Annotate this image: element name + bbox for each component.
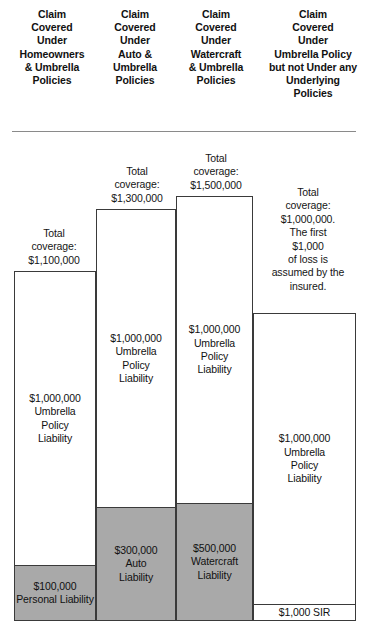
bar-segment-umbrella-liability-2[interactable]: $1,000,000 Umbrella Policy Liability xyxy=(97,210,175,507)
bar-homeowners-umbrella[interactable]: $1,000,000 Umbrella Policy Liability $10… xyxy=(14,271,96,621)
bar-segment-umbrella-liability-3[interactable]: $1,000,000 Umbrella Policy Liability xyxy=(177,197,252,503)
bar-segment-umbrella-liability-4[interactable]: $1,000,000 Umbrella Policy Liability xyxy=(254,314,355,604)
bar-segment-sir[interactable]: $1,000 SIR xyxy=(254,604,355,620)
bar-segment-watercraft-liability[interactable]: $500,000 Watercraft Liability xyxy=(177,503,252,620)
bar-auto-umbrella[interactable]: $1,000,000 Umbrella Policy Liability $30… xyxy=(96,209,176,621)
bar-segment-auto-liability[interactable]: $300,000 Auto Liability xyxy=(97,507,175,620)
bar-segment-umbrella-liability-1[interactable]: $1,000,000 Umbrella Policy Liability xyxy=(15,272,95,565)
total-coverage-label-homeowners: Total coverage: $1,100,000 xyxy=(10,227,98,267)
stacked-bar-chart: Total coverage: $1,100,000 Total coverag… xyxy=(0,0,371,627)
total-coverage-label-auto: Total coverage: $1,300,000 xyxy=(96,165,178,205)
bar-umbrella-only[interactable]: $1,000,000 Umbrella Policy Liability $1,… xyxy=(253,313,356,621)
bar-segment-personal-liability[interactable]: $100,000 Personal Liability xyxy=(15,565,95,620)
total-coverage-label-watercraft: Total coverage: $1,500,000 xyxy=(175,152,257,192)
total-coverage-label-umbrella-only: Total coverage: $1,000,000. The first $1… xyxy=(256,186,360,293)
bar-watercraft-umbrella[interactable]: $1,000,000 Umbrella Policy Liability $50… xyxy=(176,196,253,621)
